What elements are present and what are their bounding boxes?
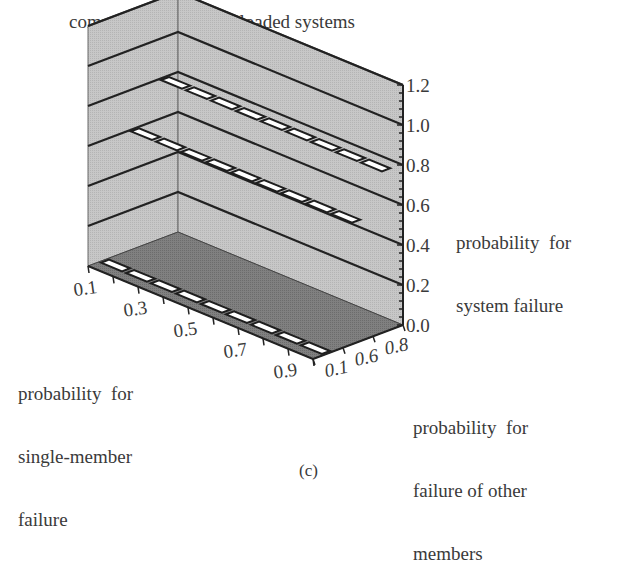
z-tick-label: 0.0 [406, 315, 430, 336]
z-axis-label-line: system failure [456, 295, 571, 316]
z-tick-label: 0.2 [406, 275, 430, 296]
x-tick-label: 0.3 [122, 297, 148, 321]
z-axis-label: probability for system failure [456, 190, 571, 337]
x-axis-label-line: failure [18, 509, 133, 530]
x-axis-label-line: single-member [18, 446, 133, 467]
y-tick-label: 0.1 [322, 356, 350, 381]
y-axis-label-line: probability for [413, 417, 528, 438]
x-tick-label: 0.7 [222, 338, 248, 362]
x-tick-label: 0.9 [272, 359, 298, 383]
x-tick-label: 0.5 [172, 317, 198, 341]
x-axis-label: probability for single-member failure [18, 341, 133, 551]
z-tick-label: 1.0 [406, 115, 430, 136]
z-tick-label: 0.8 [406, 155, 430, 176]
z-tick-label: 0.4 [406, 235, 430, 256]
z-tick-label: 1.2 [406, 75, 430, 96]
y-axis-label-line: members [413, 543, 528, 564]
y-axis-label: probability for failure of other members [413, 375, 528, 564]
y-tick-label: 0.6 [352, 344, 380, 370]
z-axis-label-line: probability for [456, 232, 571, 253]
x-tick-label: 0.1 [72, 276, 98, 300]
figure-caption: (c) [299, 462, 318, 479]
y-tick-label: 0.8 [382, 333, 410, 359]
z-tick-label: 0.6 [406, 195, 430, 216]
y-axis-label-line: failure of other [413, 480, 528, 501]
x-axis-label-line: probability for [18, 383, 133, 404]
